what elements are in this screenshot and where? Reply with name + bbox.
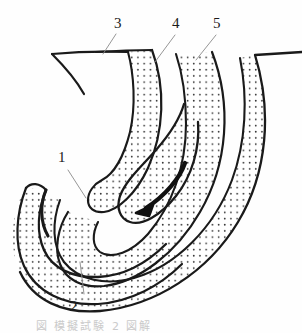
caption-text: 図 模擬試験 2 図解 [36,320,153,333]
cross-section-diagram [0,0,302,333]
band-tip-left-inner [52,54,84,94]
leader-line-1 [68,170,86,198]
label-3: 3 [114,16,122,31]
figure-root: 1 2 3 4 5 図 模擬試験 2 図解 [0,0,302,333]
caption-strip: 図 模擬試験 2 図解 [0,320,302,333]
label-2: 2 [70,299,78,314]
leader-line-4 [155,35,175,62]
label-4: 4 [172,16,180,31]
label-5: 5 [213,16,221,31]
label-1: 1 [58,150,66,165]
